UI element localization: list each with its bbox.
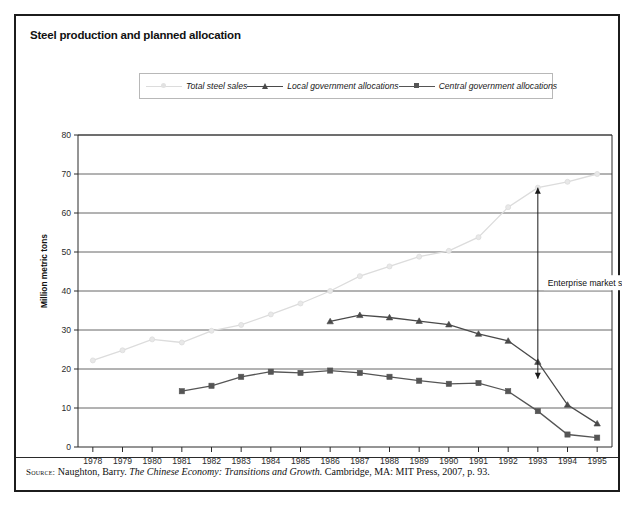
y-axis-tick-label: 80 bbox=[61, 130, 71, 140]
data-point-marker bbox=[387, 374, 392, 379]
data-point-marker bbox=[506, 205, 511, 210]
source-work-title: The Chinese Economy: Transitions and Gro… bbox=[129, 466, 322, 477]
data-point-marker bbox=[565, 432, 570, 437]
data-point-marker bbox=[446, 381, 451, 386]
source-publication: Cambridge, MA: MIT Press, 2007, p. 93. bbox=[325, 466, 490, 477]
source-divider bbox=[16, 457, 618, 458]
data-point-marker bbox=[535, 409, 540, 414]
annotation-label-enterprise-market-sales: Enterprise market sales bbox=[548, 278, 622, 288]
data-point-marker bbox=[594, 420, 600, 426]
figure-container: Steel production and planned allocation … bbox=[14, 14, 620, 492]
source-note: Source: Naughton, Barry. The Chinese Eco… bbox=[26, 465, 606, 479]
data-point-marker bbox=[298, 301, 303, 306]
series-line-central-government-allocations bbox=[182, 371, 597, 438]
data-point-marker bbox=[357, 370, 362, 375]
chart-svg: 01020304050607080 1978197919801981198219… bbox=[16, 16, 622, 494]
y-axis-tick-label: 20 bbox=[61, 364, 71, 374]
data-point-marker bbox=[150, 337, 155, 342]
data-point-marker bbox=[90, 358, 95, 363]
data-point-marker bbox=[506, 389, 511, 394]
data-point-marker bbox=[209, 328, 214, 333]
y-axis-tick-label: 60 bbox=[61, 208, 71, 218]
data-point-marker bbox=[476, 235, 481, 240]
data-point-marker bbox=[328, 289, 333, 294]
data-point-marker bbox=[328, 368, 333, 373]
data-point-marker bbox=[595, 435, 600, 440]
annotation-arrowhead-bottom bbox=[535, 373, 541, 379]
source-author: Naughton, Barry. bbox=[58, 466, 127, 477]
y-axis-tick-label: 0 bbox=[66, 442, 71, 452]
data-point-marker bbox=[239, 374, 244, 379]
data-point-marker bbox=[357, 274, 362, 279]
series-line-total-steel-sales bbox=[93, 174, 597, 360]
data-point-marker bbox=[595, 172, 600, 177]
data-point-marker bbox=[298, 370, 303, 375]
data-point-marker bbox=[268, 369, 273, 374]
y-axis-tick-label: 70 bbox=[61, 169, 71, 179]
gridlines-group bbox=[78, 135, 612, 408]
source-keyword: Source: bbox=[26, 467, 55, 477]
y-axis-tick-label: 30 bbox=[61, 325, 71, 335]
y-axis-ticks-group: 01020304050607080 bbox=[61, 130, 78, 452]
data-point-marker bbox=[179, 340, 184, 345]
data-point-marker bbox=[476, 380, 481, 385]
data-point-marker bbox=[417, 378, 422, 383]
data-point-marker bbox=[268, 312, 273, 317]
data-point-marker bbox=[209, 383, 214, 388]
data-point-marker bbox=[565, 179, 570, 184]
data-point-marker bbox=[446, 248, 451, 253]
data-point-marker bbox=[179, 389, 184, 394]
data-point-marker bbox=[239, 322, 244, 327]
data-series-group bbox=[90, 172, 600, 441]
annotations-group: Enterprise market sales bbox=[535, 188, 622, 379]
plot-area: Million metric tons 01020304050607080 19… bbox=[16, 16, 622, 494]
y-axis-tick-label: 40 bbox=[61, 286, 71, 296]
data-point-marker bbox=[120, 348, 125, 353]
y-axis-tick-label: 10 bbox=[61, 403, 71, 413]
data-point-marker bbox=[387, 264, 392, 269]
y-axis-tick-label: 50 bbox=[61, 247, 71, 257]
data-point-marker bbox=[417, 254, 422, 259]
